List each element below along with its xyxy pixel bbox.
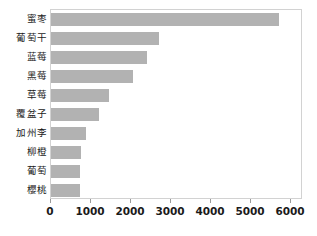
bar[interactable]	[51, 146, 81, 159]
axis-tick	[170, 199, 171, 203]
bar[interactable]	[51, 184, 80, 197]
bar-band	[51, 89, 301, 102]
bars-layer	[51, 10, 301, 198]
category-label: 加州李	[0, 128, 47, 138]
axis-tick-label: 4000	[195, 205, 224, 217]
bar-band	[51, 13, 301, 26]
bar[interactable]	[51, 70, 133, 83]
bar-band	[51, 146, 301, 159]
value-axis: 0100020003000400050006000	[50, 199, 302, 229]
axis-tick	[130, 199, 131, 203]
axis-tick	[210, 199, 211, 203]
bar-band	[51, 108, 301, 121]
axis-tick-label: 3000	[155, 205, 184, 217]
bar-band	[51, 51, 301, 64]
bar[interactable]	[51, 165, 80, 178]
axis-tick	[90, 199, 91, 203]
category-label: 櫻桃	[0, 185, 47, 195]
plot-area	[50, 9, 302, 199]
category-axis-labels: 蜜枣葡萄干蓝莓黑莓草莓覆盆子加州李柳橙葡萄櫻桃	[0, 9, 47, 199]
category-label: 柳橙	[0, 147, 47, 157]
bar-chart: 蜜枣葡萄干蓝莓黑莓草莓覆盆子加州李柳橙葡萄櫻桃 0100020003000400…	[0, 0, 317, 236]
bar[interactable]	[51, 51, 147, 64]
bar[interactable]	[51, 13, 279, 26]
bar-band	[51, 70, 301, 83]
bar[interactable]	[51, 127, 86, 140]
bar[interactable]	[51, 32, 159, 45]
bar[interactable]	[51, 108, 99, 121]
axis-tick	[50, 199, 51, 203]
axis-tick-label: 0	[46, 205, 53, 217]
category-label: 黑莓	[0, 71, 47, 81]
axis-tick	[290, 199, 291, 203]
axis-tick-label: 1000	[75, 205, 104, 217]
axis-tick-label: 2000	[115, 205, 144, 217]
bar[interactable]	[51, 89, 109, 102]
axis-tick	[250, 199, 251, 203]
bar-band	[51, 165, 301, 178]
bar-band	[51, 127, 301, 140]
axis-tick-label: 6000	[275, 205, 304, 217]
category-label: 蜜枣	[0, 14, 47, 24]
axis-tick-label: 5000	[235, 205, 264, 217]
bar-band	[51, 184, 301, 197]
bar-band	[51, 32, 301, 45]
category-label: 覆盆子	[0, 109, 47, 119]
category-label: 蓝莓	[0, 52, 47, 62]
category-label: 葡萄干	[0, 33, 47, 43]
category-label: 草莓	[0, 90, 47, 100]
category-label: 葡萄	[0, 166, 47, 176]
